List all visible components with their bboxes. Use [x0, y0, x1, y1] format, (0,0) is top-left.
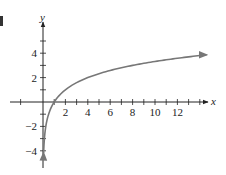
y-axis-label: y: [39, 11, 45, 23]
x-axis-label: x: [210, 95, 216, 107]
ticks: [21, 41, 200, 151]
y-tick-label: −2: [25, 120, 37, 132]
x-tick-label: 6: [107, 106, 113, 118]
log-curve: [44, 55, 207, 153]
y-tick-label: 2: [32, 72, 38, 84]
x-tick-label: 4: [85, 106, 91, 118]
log-plot: 2468101242−2−4 x y: [0, 0, 226, 175]
x-tick-label: 12: [172, 106, 183, 118]
y-tick-label: 4: [32, 47, 38, 59]
x-tick-label: 2: [63, 106, 69, 118]
axes: [10, 22, 208, 168]
x-tick-label: 8: [130, 106, 136, 118]
y-tick-label: −4: [25, 145, 37, 157]
x-tick-label: 10: [150, 106, 162, 118]
